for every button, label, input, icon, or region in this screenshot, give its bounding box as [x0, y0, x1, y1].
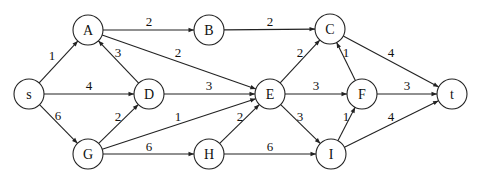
node-B: B [194, 15, 224, 45]
edge-E-I: 3 [281, 105, 321, 144]
edge-weight-label: 6 [267, 139, 274, 154]
node-label: B [204, 23, 213, 38]
edge-weight-label: 2 [237, 109, 244, 124]
edge-weight-label: 2 [146, 14, 153, 29]
edge-arrow [102, 99, 256, 150]
node-label: E [266, 87, 275, 102]
node-H: H [194, 139, 224, 169]
edge-weight-label: 6 [55, 108, 62, 123]
edge-H-E: 2 [220, 105, 260, 144]
edge-s-D: 4 [44, 78, 134, 95]
edge-weight-label: 2 [175, 45, 182, 60]
edge-s-A: 1 [39, 41, 78, 83]
node-D: D [134, 79, 164, 109]
edge-G-E: 1 [102, 99, 256, 150]
edge-weight-label: 1 [343, 45, 350, 60]
node-label: F [358, 87, 366, 102]
node-label: H [204, 147, 214, 162]
edge-arrow [102, 35, 256, 89]
edge-D-A: 3 [98, 41, 138, 83]
edge-weight-label: 3 [206, 78, 213, 93]
edge-E-F: 3 [285, 78, 347, 95]
edge-D-E: 3 [164, 78, 255, 95]
edge-weight-label: 1 [49, 48, 56, 63]
edge-F-C: 1 [337, 42, 356, 80]
node-label: s [26, 87, 31, 102]
edge-G-H: 6 [103, 139, 194, 155]
node-label: t [450, 87, 454, 102]
node-F: F [347, 79, 377, 109]
node-I: I [316, 139, 346, 169]
edge-weight-label: 3 [297, 109, 304, 124]
edge-weight-label: 2 [297, 45, 304, 60]
node-C: C [315, 14, 345, 44]
edge-weight-label: 1 [343, 109, 350, 124]
edge-weight-label: 3 [313, 78, 320, 93]
edge-weight-label: 4 [388, 45, 395, 60]
node-t: t [437, 79, 467, 109]
edge-F-t: 3 [377, 78, 437, 95]
node-label: D [144, 87, 154, 102]
edge-weight-label: 3 [115, 45, 122, 60]
edge-I-F: 1 [338, 107, 355, 140]
node-G: G [73, 139, 103, 169]
edge-weight-label: 6 [146, 139, 153, 154]
edge-weight-label: 1 [175, 109, 182, 124]
graph-diagram: 146223232162233143614 sABCDEFtGHI [0, 0, 479, 187]
graph-svg: 146223232162233143614 sABCDEFtGHI [0, 0, 479, 187]
node-label: A [83, 23, 94, 38]
edge-B-C: 2 [224, 14, 315, 30]
edge-H-I: 6 [224, 139, 316, 155]
node-label: G [83, 147, 93, 162]
node-s: s [14, 79, 44, 109]
edge-weight-label: 4 [388, 109, 395, 124]
edge-arrow [39, 41, 78, 83]
edge-weight-label: 2 [115, 109, 122, 124]
edge-A-B: 2 [103, 14, 194, 31]
nodes-layer: sABCDEFtGHI [14, 14, 467, 169]
node-A: A [73, 15, 103, 45]
edge-weight-label: 3 [404, 78, 411, 93]
edge-weight-label: 4 [86, 78, 93, 93]
edge-G-D: 2 [99, 105, 139, 144]
node-label: I [329, 147, 334, 162]
edge-weight-label: 2 [267, 14, 274, 29]
edge-arrow [224, 29, 315, 30]
node-label: C [325, 22, 334, 37]
node-E: E [255, 79, 285, 109]
edge-s-G: 6 [40, 105, 78, 144]
edge-A-E: 2 [102, 35, 256, 89]
